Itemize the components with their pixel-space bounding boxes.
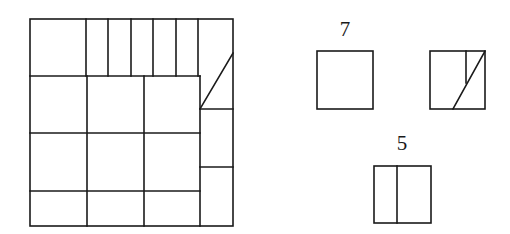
piece-count-label: 7 — [340, 17, 351, 41]
piece-1: 7 — [317, 17, 373, 109]
piece-outline — [374, 166, 431, 223]
puzzle-diagram: 75 — [0, 0, 510, 234]
piece-2 — [430, 51, 485, 109]
piece-outline — [317, 51, 373, 109]
grid-line — [200, 53, 233, 109]
big-square-grid — [30, 19, 233, 226]
piece-3: 5 — [374, 131, 431, 223]
loose-pieces: 75 — [317, 17, 485, 223]
piece-count-label: 5 — [397, 131, 408, 155]
piece-inner-line — [453, 51, 485, 109]
